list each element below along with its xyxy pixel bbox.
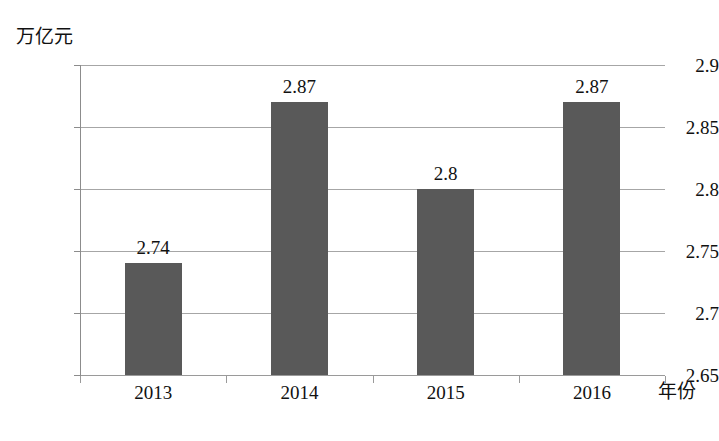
bar-value-label: 2.8	[406, 164, 486, 183]
bar	[125, 263, 182, 375]
y-axis-tick	[74, 65, 81, 66]
plot-area	[80, 65, 665, 375]
bar-value-label: 2.87	[259, 77, 339, 96]
y-axis-tick	[74, 251, 81, 252]
bar	[271, 102, 328, 375]
x-axis-tick	[80, 376, 81, 383]
bar	[417, 189, 474, 375]
y-axis-tick-label: 2.7	[651, 304, 719, 323]
y-axis-tick-label: 2.8	[651, 180, 719, 199]
y-axis-tick	[74, 127, 81, 128]
x-axis-category-label: 2014	[259, 383, 339, 402]
y-axis-tick-label: 2.9	[651, 56, 719, 75]
y-axis-tick-label: 2.65	[651, 366, 719, 385]
x-axis-tick	[519, 376, 520, 383]
x-axis-tick	[226, 376, 227, 383]
x-axis-category-label: 2013	[113, 383, 193, 402]
x-axis-tick	[373, 376, 374, 383]
y-axis-tick-label: 2.85	[651, 118, 719, 137]
bar	[563, 102, 620, 375]
x-axis-tick	[665, 376, 666, 383]
y-axis-title: 万亿元	[16, 27, 73, 46]
y-axis-tick-label: 2.75	[651, 242, 719, 261]
bar-value-label: 2.87	[552, 77, 632, 96]
x-axis-category-label: 2016	[552, 383, 632, 402]
bar-chart: 万亿元 年份 2.92.852.82.752.72.6520132.742014…	[0, 0, 719, 441]
y-axis-tick	[74, 313, 81, 314]
bar-value-label: 2.74	[113, 238, 193, 257]
x-axis-category-label: 2015	[406, 383, 486, 402]
y-axis-tick	[74, 189, 81, 190]
gridline	[80, 65, 665, 66]
